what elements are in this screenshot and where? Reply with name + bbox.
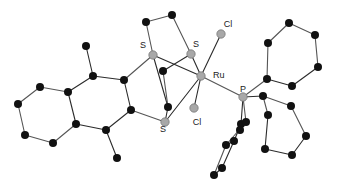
- atom-c11-c: [82, 42, 90, 50]
- atom-cl1-cl: [217, 30, 225, 38]
- atom-c26-c: [302, 132, 310, 140]
- atom-c22-c: [288, 82, 296, 90]
- atom-c24-c: [259, 92, 267, 100]
- atom-c10-c: [102, 126, 110, 134]
- lbl-cl-upper: Cl: [224, 19, 233, 29]
- atom-s1-s: [149, 51, 157, 59]
- atom-c4-c: [72, 120, 80, 128]
- atom-c31-c: [230, 137, 238, 145]
- atom-c15-c: [159, 67, 167, 75]
- atom-c6-c: [21, 131, 29, 139]
- atom-ru-ru: [197, 72, 205, 80]
- atom-c33-c: [218, 164, 226, 172]
- atom-c18-c: [264, 39, 272, 47]
- atom-c8-c: [120, 76, 128, 84]
- atom-c16-c: [164, 103, 172, 111]
- figure-background: [0, 0, 341, 188]
- atom-c19-c: [285, 19, 293, 27]
- atom-c9-c: [127, 106, 135, 114]
- atom-c5-c: [49, 139, 57, 147]
- atom-c25-c: [287, 102, 295, 110]
- atom-c27-c: [288, 151, 296, 159]
- molecular-structure-figure: SSSRuClClP: [0, 0, 341, 188]
- lbl-s-upper-left: S: [140, 40, 146, 50]
- atom-c1-c: [14, 100, 22, 108]
- atom-c28-c: [261, 145, 269, 153]
- lbl-s-upper-right: S: [193, 39, 199, 49]
- atom-c7-c: [89, 72, 97, 80]
- atom-c20-c: [311, 31, 319, 39]
- atom-cl2-cl: [190, 104, 198, 112]
- atom-c13-c: [142, 18, 150, 26]
- atom-c35-c: [236, 126, 244, 134]
- atom-c17-c: [263, 75, 271, 83]
- atom-c23-c: [264, 111, 272, 119]
- atom-c32-c: [222, 141, 230, 149]
- lbl-ru: Ru: [213, 70, 225, 80]
- atom-c21-c: [314, 63, 322, 71]
- atom-c12-c: [113, 154, 121, 162]
- lbl-cl-lower: Cl: [193, 117, 202, 127]
- atom-c14-c: [168, 11, 176, 19]
- lbl-p: P: [240, 84, 246, 94]
- atom-c30-c: [242, 118, 250, 126]
- atom-c3-c: [64, 88, 72, 96]
- structure-canvas: SSSRuClClP: [0, 0, 341, 188]
- atom-s3-s: [187, 50, 195, 58]
- atom-c2-c: [36, 83, 44, 91]
- atom-p1-p: [239, 93, 247, 101]
- lbl-s-lower: S: [160, 124, 166, 134]
- atom-c34-c: [210, 171, 218, 179]
